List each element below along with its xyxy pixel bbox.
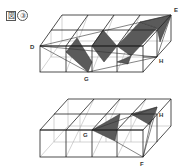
label-G: G — [84, 76, 89, 82]
label-D: D — [30, 44, 35, 50]
bottom-cross-section — [92, 107, 157, 141]
label-H-bottom: H — [159, 112, 163, 118]
label-F: F — [140, 161, 144, 167]
cube-diagrams: D E G H — [0, 0, 189, 167]
top-figure: D E G H — [30, 7, 178, 82]
label-G-bottom: G — [83, 132, 88, 138]
label-H: H — [159, 58, 163, 64]
bottom-figure: G H F — [40, 99, 171, 167]
label-E: E — [174, 7, 178, 13]
